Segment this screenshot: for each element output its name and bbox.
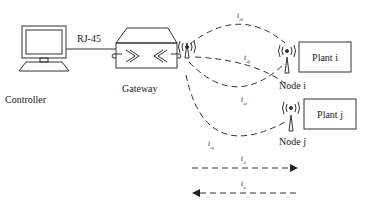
node-j-label: Node j — [279, 137, 306, 147]
node-i-label: Node i — [279, 81, 306, 91]
t-ui-label: tui — [241, 96, 247, 106]
arrow-right-icon — [290, 164, 298, 172]
t-u-label: tu — [241, 180, 246, 190]
t-di-label: tdi — [237, 12, 243, 22]
arrow-left-icon — [192, 189, 200, 197]
t-dj-label: tdj — [244, 54, 250, 64]
gateway-icon — [112, 28, 181, 68]
rj45-label: RJ-45 — [77, 34, 101, 44]
gateway-label: Gateway — [122, 84, 158, 94]
node-j-antenna-icon — [283, 102, 300, 131]
controller-icon — [19, 26, 69, 71]
controller-label: Controller — [5, 95, 46, 105]
link-t-di — [190, 24, 285, 44]
t-uj-label: tuj — [208, 140, 214, 150]
plant-i-label: Plant i — [299, 42, 351, 72]
node-i-antenna-icon — [279, 45, 296, 73]
plant-j-label: Plant j — [304, 99, 356, 129]
t-d-label: td — [241, 155, 246, 165]
link-t-uj — [186, 75, 285, 136]
link-t-dj — [195, 57, 287, 85]
link-t-ui — [189, 62, 283, 87]
